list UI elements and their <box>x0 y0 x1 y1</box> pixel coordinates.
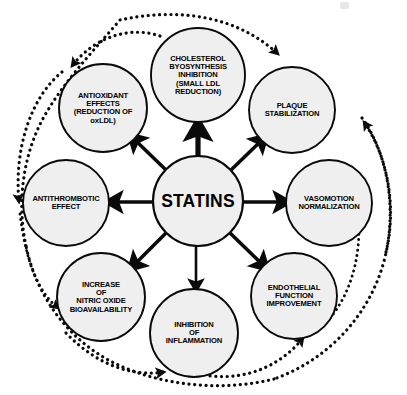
statins-pleiotropic-effects-diagram: CHOLESTEROL BYOSYNTHESIS INHIBITION (SMA… <box>0 0 407 395</box>
node-circle-antithrombotic-effect[interactable] <box>23 160 109 246</box>
node-circle-endothelial-function-improvement[interactable] <box>251 253 337 339</box>
node-circle-vasomotion-normalization[interactable] <box>286 160 372 246</box>
diagram-canvas <box>0 0 407 395</box>
node-circle-plaque-stabilization[interactable] <box>249 67 335 153</box>
node-circle-statins[interactable] <box>153 156 243 246</box>
spoke-to-antioxidant <box>134 139 166 170</box>
spoke-to-plaque <box>231 140 262 170</box>
node-circle-inhibition-of-inflammation[interactable] <box>150 289 238 377</box>
spoke-to-nitricoxide <box>134 233 166 265</box>
node-circle-increase-nitric-oxide-bioavailability[interactable] <box>57 253 145 341</box>
dotted-arc-cholesterol-to-antioxidant <box>72 32 160 66</box>
node-circle-antioxidant-effects[interactable] <box>59 64 147 152</box>
spoke-to-endothelial <box>230 233 263 265</box>
node-circles <box>23 28 372 377</box>
scan-artifact-mark <box>340 2 349 9</box>
node-circle-cholesterol-biosynthesis-inhibition[interactable] <box>151 28 245 122</box>
